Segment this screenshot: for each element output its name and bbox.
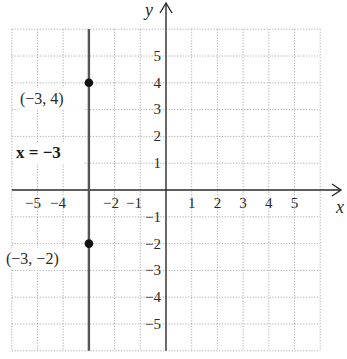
y-tick: −3 [145, 262, 161, 278]
point-neg3-4 [85, 79, 94, 88]
x-tick: 4 [265, 195, 273, 211]
point-label-neg3-neg2: (−3, −2) [6, 250, 59, 268]
x-tick-labels: −5 −4 −2 −1 1 2 3 4 5 [25, 195, 298, 211]
y-tick: −1 [145, 209, 161, 225]
x-tick: −1 [126, 195, 142, 211]
y-tick: 1 [154, 155, 162, 171]
y-axis-label: y [143, 0, 153, 20]
x-tick: 5 [291, 195, 299, 211]
y-tick: −4 [145, 289, 161, 305]
y-tick: 5 [154, 48, 162, 64]
x-tick: 3 [239, 195, 247, 211]
point-label-neg3-4: (−3, 4) [20, 90, 64, 108]
axes [12, 3, 341, 351]
y-tick: 3 [154, 101, 162, 117]
coordinate-plane: y x −5 −4 −2 −1 1 2 3 4 5 5 4 3 2 1 −1 −… [0, 0, 347, 359]
equation-label: x = −3 [16, 143, 61, 162]
y-tick: −2 [145, 236, 161, 252]
x-tick: −2 [103, 195, 119, 211]
y-tick: −5 [145, 316, 161, 332]
point-neg3-neg2 [85, 239, 94, 248]
x-axis-label: x [335, 197, 344, 217]
y-tick: 4 [154, 75, 162, 91]
x-tick: −5 [25, 195, 41, 211]
x-tick: 2 [214, 195, 222, 211]
x-tick: 1 [188, 195, 196, 211]
y-tick: 2 [154, 128, 162, 144]
x-tick: −4 [50, 195, 66, 211]
